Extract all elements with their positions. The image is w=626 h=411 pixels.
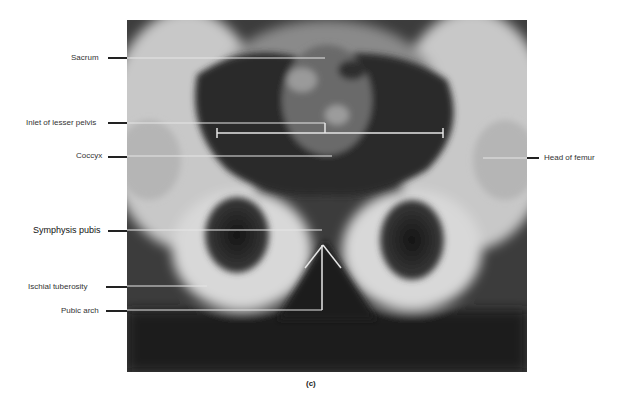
pelvis-xray-image	[127, 20, 527, 372]
leader-tick-sacrum	[108, 57, 127, 59]
label-inlet-of-lesser-pelvis: Inlet of lesser pelvis	[26, 118, 96, 128]
label-head-of-femur: Head of femur	[544, 153, 595, 163]
label-ischial-tuberosity: Ischial tuberosity	[28, 282, 88, 292]
leader-tick-symphysis	[108, 230, 127, 232]
label-sacrum: Sacrum	[71, 53, 99, 63]
leader-tick-ischial	[106, 286, 127, 288]
leader-tick-coccyx	[108, 156, 127, 158]
label-symphysis-pubis: Symphysis pubis	[33, 225, 101, 235]
leader-tick-inlet	[108, 122, 127, 124]
leader-tick-pubic-arch	[106, 310, 127, 312]
label-coccyx: Coccyx	[76, 151, 102, 161]
leader-tick-femur	[527, 157, 539, 159]
label-pubic-arch: Pubic arch	[61, 306, 99, 316]
figure-caption: (c)	[306, 379, 316, 388]
